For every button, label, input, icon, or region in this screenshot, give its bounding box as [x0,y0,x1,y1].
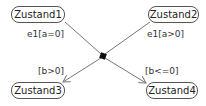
state-zustand2[interactable]: Zustand2 [148,6,199,23]
transition-label-b-gt-0: [b>0] [38,66,64,76]
transition-junction-zustand3[interactable] [63,58,101,82]
transition-junction-zustand4[interactable] [105,58,146,83]
transition-label-e1-a-eq-0: e1[a=0] [27,29,64,39]
transition-zustand2-junction[interactable] [105,22,150,54]
transition-zustand1-junction[interactable] [65,22,101,54]
state-zustand4[interactable]: Zustand4 [146,82,198,99]
transition-label-b-le-0: [b<=0] [145,66,179,76]
state-zustand3[interactable]: Zustand3 [11,82,65,99]
transition-label-e1-a-gt-0: e1[a>0] [147,29,184,39]
state-zustand1[interactable]: Zustand1 [11,6,65,23]
